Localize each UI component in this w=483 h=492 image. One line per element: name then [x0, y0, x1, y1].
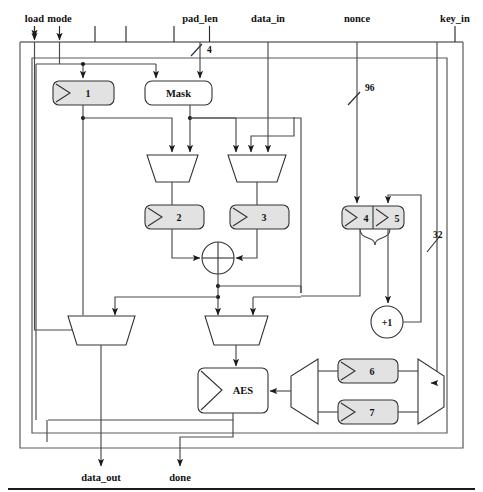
port-label-key-in: key_in	[440, 13, 470, 24]
incrementer-label: +1	[382, 317, 393, 328]
register-7: 7	[318, 400, 418, 424]
mux-aes-in	[205, 297, 301, 366]
bottom-ports: data_out done	[81, 472, 191, 483]
xor-output-routing	[115, 274, 301, 315]
port-label-load: load	[25, 13, 44, 24]
mask-label: Mask	[166, 88, 191, 99]
register-5-label: 5	[395, 213, 400, 224]
key-in-wire	[427, 42, 440, 383]
signal-routing-top	[36, 62, 156, 420]
register-3-label: 3	[262, 212, 267, 223]
port-label-nonce: nonce	[344, 13, 371, 24]
mux-reg3-in	[228, 117, 294, 182]
register-1-label: 1	[86, 88, 91, 99]
input-port-stubs	[20, 26, 463, 42]
mask-block: Mask	[145, 81, 212, 105]
bitwidth-96: 96	[365, 83, 375, 93]
xor-gate	[172, 229, 257, 274]
port-label-done: done	[169, 472, 191, 483]
port-label-data-out: data_out	[81, 472, 121, 483]
register-4-label: 4	[364, 213, 369, 224]
mux-dataout	[68, 316, 135, 466]
register-4-5-pair: 4 5	[342, 206, 404, 229]
register-7-label: 7	[370, 407, 375, 418]
bitwidth-4: 4	[207, 45, 212, 55]
bitwidth-32: 32	[433, 230, 443, 240]
diagram-canvas: 1 Mask 2	[0, 0, 483, 492]
register-2-label: 2	[177, 212, 182, 223]
top-ports: load mode pad_len data_in nonce key_in	[25, 13, 470, 24]
aes-block: AES	[48, 368, 268, 420]
nonce-wire	[348, 42, 360, 203]
pad-len-wire	[191, 42, 202, 78]
demux-key	[270, 359, 318, 424]
port-label-mode: mode	[47, 13, 72, 24]
register-6: 6	[318, 359, 418, 383]
register-1: 1	[53, 81, 114, 105]
register-2: 2	[145, 182, 204, 229]
register-3: 3	[230, 182, 289, 229]
done-output-wire	[47, 420, 233, 466]
port-label-data-in: data_in	[251, 13, 285, 24]
mux-key	[418, 359, 444, 424]
aes-label: AES	[233, 385, 254, 396]
datapath-diagram: 1 Mask 2	[0, 0, 483, 492]
mux-reg2-in	[147, 155, 198, 182]
register-6-label: 6	[370, 366, 375, 377]
port-label-pad-len: pad_len	[182, 13, 218, 24]
counter-merge	[301, 229, 390, 303]
